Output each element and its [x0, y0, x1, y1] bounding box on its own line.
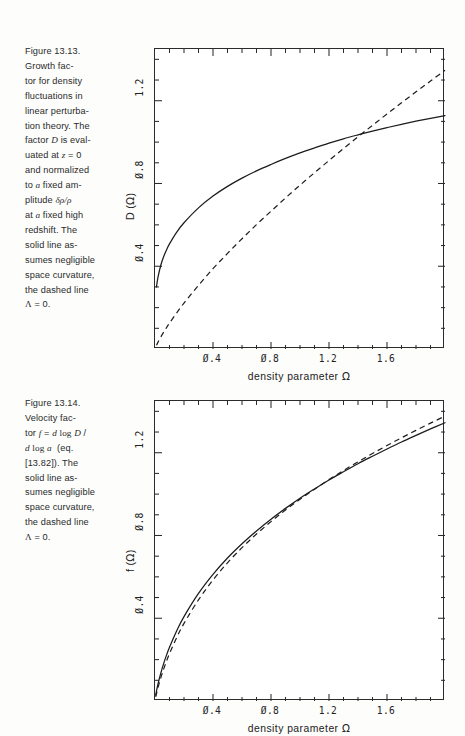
plot-area-13-14	[154, 400, 444, 700]
x-tick-label: 1.2	[319, 705, 338, 716]
x-axis-title: density parameter Ω	[154, 370, 444, 382]
x-tick-label: 1.6	[377, 353, 396, 364]
ticks-13-14	[155, 401, 445, 701]
y-axis-title: f (Ω)	[124, 549, 136, 572]
x-axis-title: density parameter Ω	[154, 722, 444, 734]
plot-frame-13-13	[154, 48, 444, 348]
curve-solid-13-13	[156, 116, 445, 287]
x-tick-label: 1.2	[319, 353, 338, 364]
x-tick-label: Ø.8	[261, 353, 280, 364]
plot-canvas-13-14	[155, 401, 445, 701]
curve-solid-13-14	[156, 423, 445, 695]
y-tick-label: 1.2	[134, 76, 145, 98]
y-tick-label: Ø.8	[134, 159, 145, 181]
y-tick-label: 1.2	[134, 428, 145, 450]
book-page: Figure 13.13.Growth fac-tor for densityf…	[0, 0, 465, 736]
plot-area-13-13	[154, 48, 444, 348]
x-tick-label: Ø.8	[261, 705, 280, 716]
y-tick-label: Ø.4	[134, 594, 145, 616]
x-tick-label: Ø.4	[203, 353, 222, 364]
plot-frame-13-14	[154, 400, 444, 700]
plot-canvas-13-13	[155, 49, 445, 349]
curve-dashed-13-13	[156, 70, 445, 345]
y-axis-title: D (Ω)	[124, 193, 136, 220]
y-tick-label: Ø.8	[134, 511, 145, 533]
figure-13-13: Ø.4Ø.81.21.6Ø.4Ø.81.2density parameter Ω…	[118, 40, 458, 388]
x-tick-label: Ø.4	[203, 705, 222, 716]
curve-dashed-13-14	[156, 416, 445, 697]
figure-13-14: Ø.4Ø.81.21.6Ø.4Ø.81.2density parameter Ω…	[118, 392, 458, 736]
x-tick-label: 1.6	[377, 705, 396, 716]
y-tick-label: Ø.4	[134, 242, 145, 264]
ticks-13-13	[155, 49, 445, 349]
